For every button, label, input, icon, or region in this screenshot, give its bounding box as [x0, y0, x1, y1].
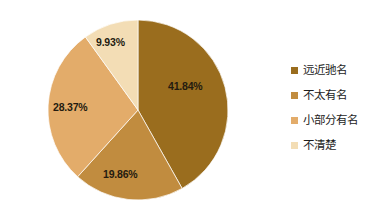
- chart-legend: 远近驰名 不太有名 小部分有名 不清楚: [291, 58, 386, 158]
- legend-label-1: 不太有名: [303, 90, 347, 102]
- legend-item-2[interactable]: 小部分有名: [291, 108, 386, 133]
- legend-swatch-icon-1: [291, 92, 298, 99]
- legend-swatch-icon-0: [291, 67, 298, 74]
- legend-item-3[interactable]: 不清楚: [291, 133, 386, 158]
- legend-label-0: 远近驰名: [303, 65, 347, 77]
- slice-value-label-2: 28.37%: [53, 101, 87, 113]
- slice-value-label-1: 19.86%: [103, 168, 137, 180]
- pie-chart: 41.84% 19.86% 28.37% 9.93% 远近驰名 不太有名 小部分…: [0, 0, 386, 222]
- legend-item-0[interactable]: 远近驰名: [291, 58, 386, 83]
- legend-swatch-icon-3: [291, 142, 298, 149]
- pie-area: 41.84% 19.86% 28.37% 9.93%: [46, 18, 230, 202]
- slice-value-label-0: 41.84%: [168, 80, 202, 92]
- legend-item-1[interactable]: 不太有名: [291, 83, 386, 108]
- legend-swatch-icon-2: [291, 117, 298, 124]
- legend-label-2: 小部分有名: [303, 115, 358, 127]
- slice-value-label-3: 9.93%: [96, 36, 125, 48]
- legend-label-3: 不清楚: [303, 140, 336, 152]
